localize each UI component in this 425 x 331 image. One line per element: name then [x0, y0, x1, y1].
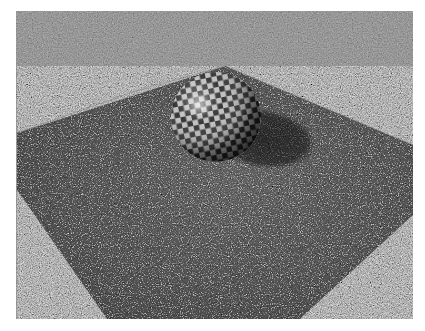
scene-canvas [16, 11, 413, 319]
checkered-sphere [171, 72, 261, 162]
specular-highlight [185, 93, 213, 117]
render-viewport [16, 11, 413, 319]
